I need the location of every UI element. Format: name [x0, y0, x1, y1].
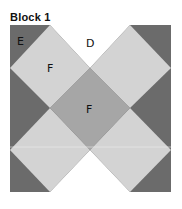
label-f-diamond: F: [47, 62, 53, 75]
label-f-center: F: [86, 103, 92, 116]
label-d: D: [86, 37, 94, 50]
label-e: E: [17, 35, 24, 48]
quilt-block-diagram: E D F F: [0, 0, 182, 209]
